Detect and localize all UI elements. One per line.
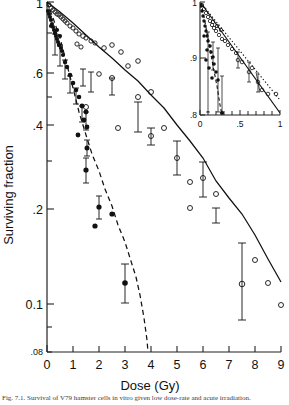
filled-series-error-bars xyxy=(52,34,129,303)
x-tick-label-8: 8 xyxy=(252,358,259,372)
inset-y-tick-09: .9 xyxy=(190,53,197,63)
inset-plot: 1 .9 .8 0 .5 1 xyxy=(190,0,283,129)
y-tick-label-04: .4 xyxy=(33,119,43,133)
x-tick-label-0: 0 xyxy=(44,358,51,372)
y-tick-label-06: .6 xyxy=(33,67,43,81)
x-axis-ticks xyxy=(47,345,281,352)
inset-error-bars xyxy=(206,32,260,113)
main-axes xyxy=(47,2,281,352)
x-tick-label-1: 1 xyxy=(70,358,77,372)
figure-container: 1 .6 .4 .2 0.1 .08 0 1 2 3 4 5 6 7 8 9 xyxy=(0,0,289,405)
inset-x-tick-0: 0 xyxy=(198,119,203,129)
inset-y-tick-1: 1 xyxy=(192,0,197,8)
x-tick-label-9: 9 xyxy=(278,358,285,372)
x-tick-label-7: 7 xyxy=(226,358,233,372)
low-dose-rate-fit-line xyxy=(47,2,281,282)
inset-x-tick-05: .5 xyxy=(236,119,243,129)
x-tick-label-3: 3 xyxy=(122,358,129,372)
x-tick-label-4: 4 xyxy=(148,358,155,372)
inset-x-tick-1: 1 xyxy=(278,119,283,129)
acute-data-points xyxy=(46,9,128,286)
inset-x-ticks xyxy=(200,110,280,115)
low-dose-rate-data-points xyxy=(47,3,284,308)
x-tick-label-2: 2 xyxy=(96,358,103,372)
x-axis-title: Dose (Gy) xyxy=(120,378,179,393)
y-axis-title: Surviving fraction xyxy=(1,145,16,245)
x-tick-label-6: 6 xyxy=(200,358,207,372)
y-axis-ticks xyxy=(47,2,54,352)
y-tick-label-02: .2 xyxy=(33,203,43,217)
y-tick-label-008: .08 xyxy=(30,347,43,357)
y-tick-label-1: 1 xyxy=(36,0,43,11)
survival-curve-chart: 1 .6 .4 .2 0.1 .08 0 1 2 3 4 5 6 7 8 9 xyxy=(0,0,289,405)
x-tick-label-5: 5 xyxy=(174,358,181,372)
y-tick-label-01: 0.1 xyxy=(26,298,43,312)
inset-y-tick-08: .8 xyxy=(190,110,197,120)
figure-caption: Fig. 7.1. Survival of V79 hamster cells … xyxy=(2,394,287,403)
